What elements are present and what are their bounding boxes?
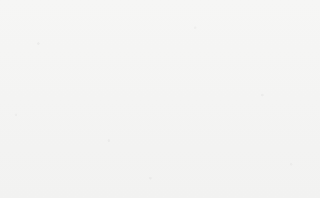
x-axis-tick-mark (235, 172, 237, 177)
y-axis: 4000 3500 3000 2500 2000 1500 1000 500 (0, 0, 50, 198)
bar-chart-figure: 4000 3500 3000 2500 2000 1500 1000 500 (0, 0, 320, 198)
bar-yes (186, 151, 287, 171)
x-axis-tick-label-no: no (106, 178, 117, 190)
plot-area (50, 11, 302, 172)
x-axis-tick-mark (110, 172, 112, 177)
bar-no (61, 13, 162, 171)
x-axis-tick-label-yes: yes (229, 178, 244, 190)
